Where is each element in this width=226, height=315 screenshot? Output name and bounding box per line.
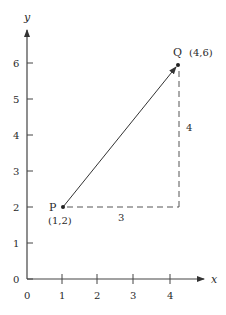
horizontal-leg-label: 3 — [118, 212, 124, 223]
point-q — [176, 63, 180, 67]
svg-text:0: 0 — [13, 274, 19, 285]
svg-text:3: 3 — [130, 290, 136, 301]
y-tick-labels: 0 1 2 3 4 5 6 — [13, 58, 19, 285]
vector-diagram: y x 0 1 2 3 4 5 6 0 1 2 3 4 3 4 — [0, 0, 226, 315]
svg-text:2: 2 — [94, 290, 100, 301]
point-p — [61, 205, 65, 209]
svg-text:6: 6 — [13, 58, 19, 69]
x-axis-label: x — [211, 273, 218, 286]
svg-text:0: 0 — [24, 290, 30, 301]
point-p-coords: (1,2) — [48, 215, 72, 226]
svg-text:4: 4 — [167, 290, 173, 301]
svg-text:3: 3 — [13, 166, 19, 177]
point-q-coords: (4,6) — [189, 47, 213, 58]
svg-text:1: 1 — [59, 290, 65, 301]
point-p-label: P — [49, 201, 57, 214]
vertical-leg-label: 4 — [186, 122, 192, 133]
y-ticks — [27, 63, 33, 279]
point-q-label: Q — [173, 46, 182, 59]
svg-text:5: 5 — [13, 94, 19, 105]
x-tick-labels: 0 1 2 3 4 — [24, 290, 173, 301]
svg-text:1: 1 — [13, 238, 19, 249]
vector-pq — [63, 67, 176, 207]
y-axis-label: y — [23, 11, 31, 24]
svg-text:2: 2 — [13, 202, 19, 213]
svg-text:4: 4 — [13, 130, 19, 141]
